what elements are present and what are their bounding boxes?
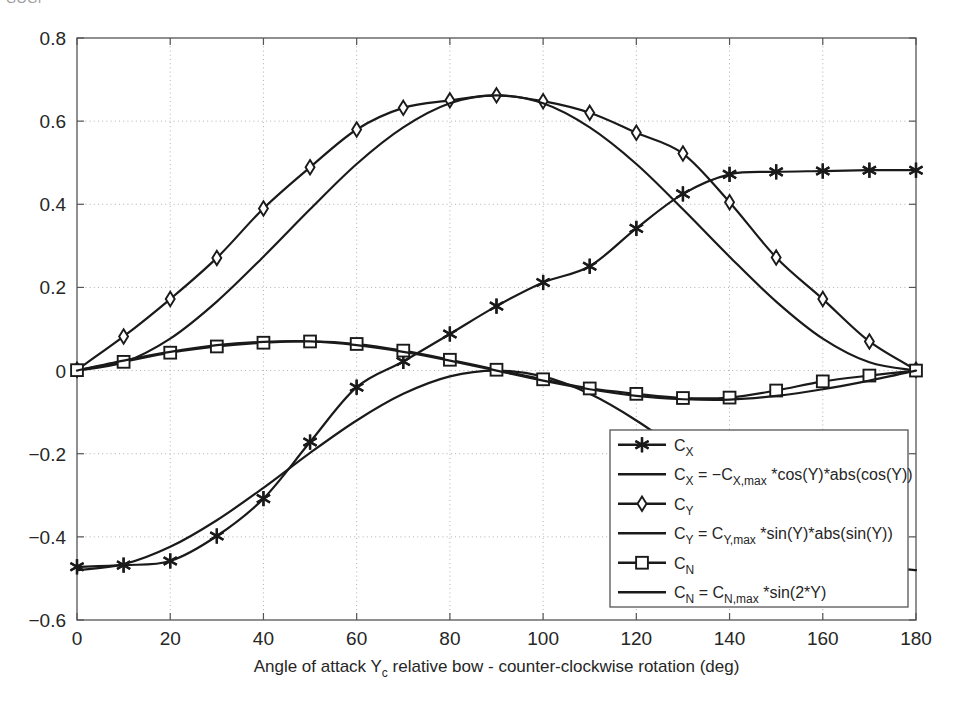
x-axis-title-pre: Angle of attack Y xyxy=(254,657,382,676)
x-tick-label: 0 xyxy=(72,628,83,649)
diamond-marker xyxy=(166,292,175,306)
figure-container: GOGI 020406080100120140160180−0.6−0.4−0.… xyxy=(0,0,954,701)
legend-label-post: *cos(Y)*abs(cos(Y)) xyxy=(767,466,913,483)
legend-label-sub1: Y xyxy=(686,533,694,547)
legend-label-sub1: N xyxy=(686,563,695,577)
legend-label-post: *sin(Y)*abs(sin(Y)) xyxy=(756,525,893,542)
legend-label-mid: = C xyxy=(694,584,724,601)
x-tick-label: 100 xyxy=(527,628,559,649)
y-tick-label: 0.4 xyxy=(40,194,67,215)
legend: CXCX = −CX,max *cos(Y)*abs(cos(Y))CYCY =… xyxy=(610,430,913,607)
x-tick-label: 20 xyxy=(160,628,181,649)
diamond-shape xyxy=(772,250,781,264)
series-line xyxy=(77,341,916,400)
x-tick-label: 160 xyxy=(807,628,839,649)
y-tick-label: 0.8 xyxy=(40,28,66,49)
diamond-marker xyxy=(678,146,687,160)
diamond-marker xyxy=(212,251,221,265)
square-shape xyxy=(817,375,829,387)
legend-label-pre: C xyxy=(674,496,686,513)
chart-canvas: 020406080100120140160180−0.6−0.4−0.200.2… xyxy=(0,0,954,701)
y-tick-label: 0.2 xyxy=(40,277,66,298)
diamond-marker xyxy=(865,334,874,348)
x-tick-label: 40 xyxy=(253,628,274,649)
diamond-shape xyxy=(259,201,268,215)
series-line xyxy=(77,95,916,369)
legend-label-sub1: N xyxy=(686,592,695,606)
clipped-header-text: GOGI xyxy=(6,0,42,6)
legend-label-sub2: X,max xyxy=(733,474,767,488)
asterisk-marker xyxy=(210,528,223,543)
legend-label-sub2: N,max xyxy=(724,592,759,606)
legend-label-mid: = C xyxy=(694,525,724,542)
y-tick-label: −0.2 xyxy=(28,444,66,465)
diamond-marker xyxy=(119,329,128,343)
legend-label-pre: C xyxy=(674,525,686,542)
legend-label-sub1: X xyxy=(686,474,694,488)
square-marker xyxy=(724,392,736,404)
y-tick-label: 0.6 xyxy=(40,111,66,132)
x-tick-label: 140 xyxy=(714,628,746,649)
diamond-shape xyxy=(865,334,874,348)
square-shape xyxy=(636,557,648,569)
data-series xyxy=(77,95,916,370)
legend-label-pre: C xyxy=(674,437,686,454)
x-tick-label: 80 xyxy=(439,628,460,649)
asterisk-marker xyxy=(490,299,503,314)
diamond-shape xyxy=(585,106,594,120)
data-series xyxy=(73,88,921,377)
diamond-marker xyxy=(259,201,268,215)
asterisk-marker xyxy=(583,259,596,274)
x-tick-label: 180 xyxy=(900,628,932,649)
diamond-shape xyxy=(678,146,687,160)
asterisk-marker xyxy=(164,553,177,568)
x-tick-label: 60 xyxy=(346,628,367,649)
diamond-shape xyxy=(399,101,408,115)
diamond-marker xyxy=(306,160,315,174)
x-tick-label: 120 xyxy=(620,628,652,649)
asterisk-marker xyxy=(676,186,689,201)
square-marker xyxy=(636,557,648,569)
diamond-shape xyxy=(119,329,128,343)
legend-label-post: *sin(2*Y) xyxy=(759,584,827,601)
square-marker xyxy=(817,375,829,387)
asterisk-marker xyxy=(630,221,643,236)
y-tick-label: 0 xyxy=(55,361,66,382)
asterisk-marker xyxy=(443,326,456,341)
legend-label-pre: C xyxy=(674,466,686,483)
x-axis-title-post: relative bow - counter-clockwise rotatio… xyxy=(388,657,739,676)
square-shape xyxy=(724,392,736,404)
diamond-shape xyxy=(352,122,361,136)
diamond-marker xyxy=(632,126,641,140)
series-line xyxy=(77,95,916,370)
diamond-shape xyxy=(166,292,175,306)
diamond-marker xyxy=(585,106,594,120)
x-axis-title: Angle of attack Yc relative bow - counte… xyxy=(254,657,740,680)
diamond-marker xyxy=(399,101,408,115)
legend-label-sub2: Y,max xyxy=(723,533,755,547)
y-tick-label: −0.4 xyxy=(28,527,66,548)
diamond-shape xyxy=(212,251,221,265)
diamond-marker xyxy=(818,292,827,306)
diamond-marker xyxy=(772,250,781,264)
diamond-shape xyxy=(818,292,827,306)
legend-box xyxy=(610,430,908,607)
legend-label-mid: = −C xyxy=(694,466,733,483)
legend-label-pre: C xyxy=(674,584,686,601)
legend-label-sub1: Y xyxy=(686,504,694,518)
diamond-shape xyxy=(306,160,315,174)
diamond-marker xyxy=(352,122,361,136)
diamond-shape xyxy=(632,126,641,140)
data-series xyxy=(77,341,916,400)
y-tick-label: −0.6 xyxy=(28,610,66,631)
legend-label-pre: C xyxy=(674,555,686,572)
legend-label-sub1: X xyxy=(686,445,694,459)
square-shape xyxy=(630,388,642,400)
square-marker xyxy=(630,388,642,400)
